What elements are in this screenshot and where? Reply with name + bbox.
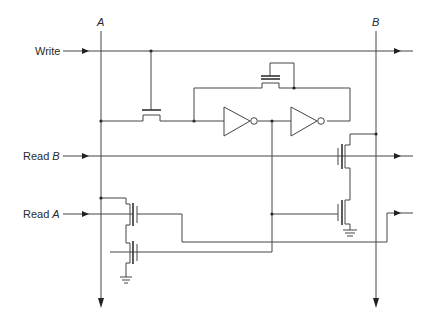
read-b-label: Read B	[23, 150, 60, 162]
read-a-line	[63, 211, 133, 217]
bus-b-label: B	[372, 16, 379, 28]
arrow-down-icon	[373, 298, 379, 308]
read-a-transistor-top	[101, 198, 413, 243]
bus-a-line	[98, 31, 104, 308]
inverter-2	[291, 107, 324, 136]
inverter-1	[224, 107, 257, 136]
arrow-right-icon	[394, 153, 401, 159]
ground-right	[343, 230, 357, 236]
feedback-loop	[194, 63, 350, 121]
write-label: Write	[35, 45, 60, 57]
ground-left	[120, 277, 132, 283]
write-pass-transistor	[101, 110, 224, 121]
arrow-right-icon	[394, 48, 401, 54]
read-a-label: Read A	[23, 208, 60, 220]
arrow-right-icon	[394, 210, 401, 216]
arrow-down-icon	[98, 298, 104, 308]
circuit-diagram: A B Write	[0, 0, 432, 327]
arrow-right-icon	[82, 48, 89, 54]
bus-b-line	[373, 31, 379, 308]
read-b-transistor-top	[338, 134, 376, 200]
read-b-transistor-bottom	[272, 200, 350, 230]
bus-a-label: A	[96, 16, 104, 28]
read-b-line	[63, 153, 413, 159]
node-wire	[110, 121, 272, 252]
arrow-right-icon	[82, 211, 89, 217]
arrow-right-icon	[82, 153, 89, 159]
read-a-transistor-bottom	[126, 241, 137, 277]
junction-dot	[292, 86, 295, 89]
write-line	[63, 48, 413, 54]
